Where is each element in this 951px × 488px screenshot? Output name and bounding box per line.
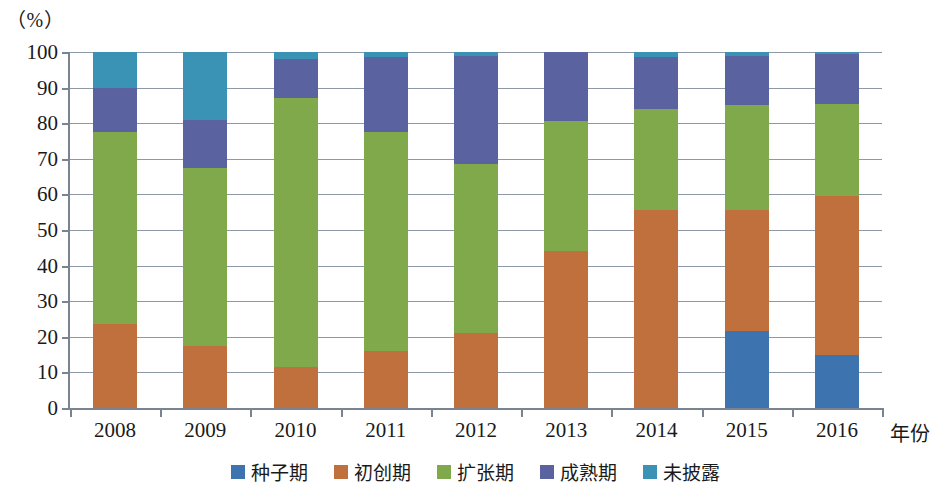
legend-label: 种子期 [251, 458, 308, 485]
x-axis-title: 年份 [890, 418, 930, 447]
y-axis-tick-label: 60 [10, 182, 58, 207]
legend-item-种子期[interactable]: 种子期 [231, 458, 308, 485]
chart-legend: 种子期初创期扩张期成熟期未披露 [0, 458, 951, 485]
bar-segment-未披露 [454, 52, 498, 56]
bar-2013 [544, 52, 588, 408]
x-axis-tick [341, 408, 343, 417]
y-axis-tick [62, 123, 69, 125]
y-axis-tick-label: 80 [10, 111, 58, 136]
bar-segment-初创期 [183, 346, 227, 408]
y-axis-tick [62, 159, 69, 161]
bar-2012 [454, 52, 498, 408]
y-axis-tick-label: 10 [10, 360, 58, 385]
bar-segment-成熟期 [634, 57, 678, 109]
y-axis-tick-label: 70 [10, 146, 58, 171]
y-axis-tick-label: 0 [10, 396, 58, 421]
bar-segment-初创期 [274, 367, 318, 408]
bar-segment-初创期 [815, 196, 859, 354]
legend-item-扩张期[interactable]: 扩张期 [437, 458, 514, 485]
y-axis-tick [62, 337, 69, 339]
x-axis-tick [792, 408, 794, 417]
bar-segment-扩张期 [183, 168, 227, 346]
y-axis-tick-label: 50 [10, 218, 58, 243]
bar-segment-扩张期 [364, 132, 408, 351]
y-axis-tick [62, 88, 69, 90]
x-axis-label-2010: 2010 [275, 418, 317, 443]
x-axis-label-2015: 2015 [726, 418, 768, 443]
bar-segment-初创期 [544, 251, 588, 408]
bar-segment-成熟期 [454, 56, 498, 165]
x-axis-tick [702, 408, 704, 417]
x-axis-tick [521, 408, 523, 417]
y-axis-tick [62, 408, 69, 410]
x-axis-tick [250, 408, 252, 417]
bar-segment-扩张期 [93, 132, 137, 324]
x-axis-label-2008: 2008 [94, 418, 136, 443]
x-axis-label-2009: 2009 [184, 418, 226, 443]
y-axis-tick-label: 40 [10, 253, 58, 278]
bar-segment-未披露 [634, 52, 678, 57]
bar-segment-未披露 [93, 52, 137, 88]
bar-segment-扩张期 [634, 109, 678, 210]
x-axis-tick [70, 408, 72, 417]
bar-segment-扩张期 [815, 104, 859, 197]
bar-segment-扩张期 [544, 121, 588, 251]
legend-label: 初创期 [354, 458, 411, 485]
legend-swatch-icon [540, 465, 554, 479]
bar-segment-扩张期 [454, 164, 498, 333]
y-axis-tick-label: 20 [10, 324, 58, 349]
x-axis-label-2014: 2014 [635, 418, 677, 443]
bar-2014 [634, 52, 678, 408]
bar-segment-未披露 [274, 52, 318, 59]
bar-2015 [725, 52, 769, 408]
y-axis-tick [62, 301, 69, 303]
bar-segment-初创期 [634, 210, 678, 408]
bar-segment-初创期 [364, 351, 408, 408]
y-axis-tick [62, 266, 69, 268]
bar-segment-未披露 [364, 52, 408, 57]
bar-segment-未披露 [725, 52, 769, 56]
legend-item-未披露[interactable]: 未披露 [643, 458, 720, 485]
x-axis-tick [882, 408, 884, 417]
y-axis-tick [62, 194, 69, 196]
y-axis-tick-label: 30 [10, 289, 58, 314]
stacked-bar-chart: （%） 010203040506070809010020082009201020… [0, 0, 951, 488]
bar-segment-初创期 [93, 324, 137, 408]
legend-swatch-icon [437, 465, 451, 479]
x-axis-tick [611, 408, 613, 417]
legend-swatch-icon [334, 465, 348, 479]
x-axis-tick [431, 408, 433, 417]
bar-segment-成熟期 [725, 56, 769, 106]
bar-2010 [274, 52, 318, 408]
bar-segment-初创期 [725, 210, 769, 331]
x-axis-label-2012: 2012 [455, 418, 497, 443]
y-axis-unit-label: （%） [6, 4, 64, 33]
legend-swatch-icon [231, 465, 245, 479]
legend-label: 扩张期 [457, 458, 514, 485]
bar-segment-未披露 [183, 52, 227, 120]
bar-segment-未披露 [815, 52, 859, 54]
y-axis-tick-label: 90 [10, 75, 58, 100]
bar-segment-成熟期 [544, 52, 588, 121]
x-axis-tick [160, 408, 162, 417]
plot-area: 0102030405060708090100200820092010201120… [68, 52, 882, 410]
y-axis-tick [62, 372, 69, 374]
bar-segment-扩张期 [725, 105, 769, 210]
bar-segment-成熟期 [364, 57, 408, 132]
bar-segment-种子期 [725, 331, 769, 408]
bar-2016 [815, 52, 859, 408]
legend-item-初创期[interactable]: 初创期 [334, 458, 411, 485]
bar-segment-成熟期 [183, 120, 227, 168]
bar-2011 [364, 52, 408, 408]
x-axis-label-2016: 2016 [816, 418, 858, 443]
bar-2008 [93, 52, 137, 408]
x-axis-label-2013: 2013 [545, 418, 587, 443]
y-axis-tick [62, 52, 69, 54]
bar-segment-成熟期 [274, 59, 318, 98]
y-axis-tick-label: 100 [10, 40, 58, 65]
legend-item-成熟期[interactable]: 成熟期 [540, 458, 617, 485]
x-axis-label-2011: 2011 [365, 418, 406, 443]
legend-label: 成熟期 [560, 458, 617, 485]
bar-segment-初创期 [454, 333, 498, 408]
bar-segment-种子期 [815, 355, 859, 408]
